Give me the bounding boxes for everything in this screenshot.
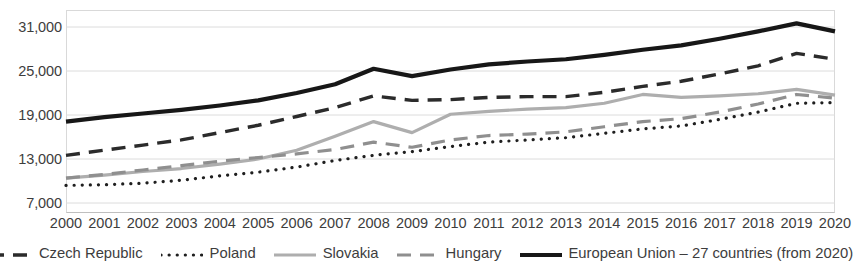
x-axis-tick-label: 2001 xyxy=(88,216,120,231)
legend-label: European Union – 27 countries (from 2020… xyxy=(569,246,853,261)
x-axis-tick-label: 2013 xyxy=(550,216,582,231)
legend-label: Poland xyxy=(210,246,256,261)
x-axis-tick-label: 2003 xyxy=(165,216,197,231)
x-axis-tick-label: 2009 xyxy=(396,216,428,231)
x-axis-tick-label: 2000 xyxy=(50,216,82,231)
x-axis-tick-label: 2008 xyxy=(357,216,389,231)
legend-item[interactable]: Poland xyxy=(161,246,256,261)
x-axis-tick-label: 2011 xyxy=(473,216,504,231)
x-axis-tick-label: 2015 xyxy=(627,216,659,231)
legend-item[interactable]: Hungary xyxy=(397,246,502,261)
x-axis-tick-label: 2019 xyxy=(780,216,812,231)
x-axis-tick-label: 2017 xyxy=(704,216,736,231)
x-axis-tick-label: 2007 xyxy=(319,216,351,231)
x-axis-tick-label: 2014 xyxy=(588,216,620,231)
series-line xyxy=(66,23,835,121)
legend-item[interactable]: Czech Republic xyxy=(0,246,143,261)
x-axis-tick-label: 2002 xyxy=(127,216,159,231)
series-lines xyxy=(66,23,835,185)
chart-legend: Czech RepublicPolandSlovakiaHungaryEurop… xyxy=(0,240,843,266)
x-axis-tick-label: 2020 xyxy=(819,216,851,231)
x-axis-tick-label: 2016 xyxy=(665,216,697,231)
x-axis-tick-label: 2005 xyxy=(242,216,274,231)
legend-swatch-icon xyxy=(520,247,562,259)
legend-label: Hungary xyxy=(446,246,502,261)
legend-swatch-icon xyxy=(274,247,316,259)
x-axis-tick-label: 2004 xyxy=(204,216,236,231)
legend-swatch-icon xyxy=(397,247,439,259)
x-axis-tick-label: 2006 xyxy=(281,216,313,231)
x-axis-tick-label: 2012 xyxy=(511,216,543,231)
legend-label: Slovakia xyxy=(323,246,379,261)
legend-swatch-icon xyxy=(0,247,32,259)
x-axis-tick-label: 2010 xyxy=(434,216,466,231)
x-axis-tick-label: 2018 xyxy=(742,216,774,231)
legend-item[interactable]: European Union – 27 countries (from 2020… xyxy=(520,246,853,261)
x-axis: 2000200120022003200420052006200720082009… xyxy=(66,216,835,238)
legend-item[interactable]: Slovakia xyxy=(274,246,379,261)
legend-label: Czech Republic xyxy=(39,246,143,261)
legend-swatch-icon xyxy=(161,247,203,259)
series-line xyxy=(66,94,835,178)
